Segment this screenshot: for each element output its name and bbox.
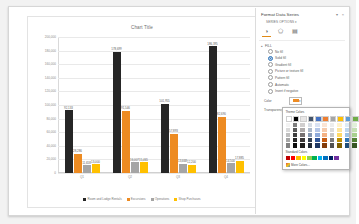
color-swatch[interactable] (308, 133, 313, 138)
radio-icon[interactable] (268, 62, 273, 67)
fill-option[interactable]: Invert if negative (256, 89, 348, 94)
color-swatch[interactable] (345, 128, 350, 133)
color-swatch[interactable] (322, 143, 327, 148)
fill-color-field[interactable]: Color▾ (256, 97, 348, 105)
color-swatch[interactable] (300, 116, 307, 123)
radio-icon[interactable] (268, 75, 273, 80)
radio-icon[interactable] (268, 49, 273, 54)
radio-icon[interactable] (268, 69, 273, 74)
color-swatch[interactable] (293, 143, 298, 148)
color-swatch[interactable] (286, 143, 291, 148)
color-swatch[interactable] (352, 128, 357, 133)
color-swatch[interactable] (345, 123, 350, 128)
bar[interactable]: 14,500 (227, 163, 235, 173)
color-swatch[interactable] (323, 156, 328, 161)
close-icon[interactable]: × (342, 12, 344, 17)
color-swatch[interactable] (337, 133, 342, 138)
color-swatch[interactable] (345, 143, 350, 148)
color-swatch[interactable] (291, 156, 296, 161)
fill-options-list[interactable]: No fillSolid fillGradient fillPicture or… (256, 49, 348, 94)
bar[interactable]: 91,546 (122, 111, 130, 173)
color-swatch[interactable] (352, 143, 357, 148)
bar[interactable]: 16,007 (131, 162, 139, 173)
bar[interactable]: 186,395 (209, 46, 217, 173)
color-swatch[interactable] (337, 138, 342, 143)
bar[interactable]: 12,200 (188, 165, 196, 173)
color-swatch[interactable] (345, 116, 352, 123)
bar[interactable]: 92,133 (65, 110, 73, 173)
color-swatch[interactable] (302, 156, 307, 161)
effects-tab[interactable]: ⬠ (276, 27, 285, 36)
color-swatch[interactable] (352, 116, 359, 123)
bar[interactable]: 178,699 (113, 52, 121, 174)
more-colors-item[interactable]: More Colors... (286, 163, 347, 167)
fill-option[interactable]: Solid fill (256, 56, 348, 61)
color-swatch[interactable] (307, 156, 312, 161)
color-swatch[interactable] (293, 138, 298, 143)
bar-group[interactable]: 101,95557,89313,66812,200Q3 (161, 37, 196, 173)
color-picker-dropdown[interactable]: Theme Colors Standard Colors More Colors… (282, 107, 350, 170)
legend-item[interactable]: Operations (151, 197, 170, 201)
theme-color-swatches[interactable] (286, 116, 347, 148)
series-options-tab[interactable]: ▤ (290, 27, 299, 36)
color-swatch-button[interactable]: ▾ (289, 97, 302, 105)
bar-group[interactable]: 92,13328,28611,65813,000Q1 (65, 37, 100, 173)
color-swatch[interactable] (330, 143, 335, 148)
chart-container[interactable]: Chart Title 200,000180,000160,000140,000… (27, 16, 257, 208)
color-swatch[interactable] (322, 138, 327, 143)
color-swatch[interactable] (293, 123, 298, 128)
color-swatch[interactable] (315, 116, 322, 123)
chevron-down-icon[interactable]: ▾ (299, 100, 301, 103)
color-swatch[interactable] (345, 138, 350, 143)
bar[interactable]: 13,000 (92, 164, 100, 173)
color-swatch[interactable] (308, 116, 315, 123)
color-swatch[interactable] (315, 128, 320, 133)
color-swatch[interactable] (337, 128, 342, 133)
color-swatch[interactable] (286, 133, 291, 138)
chart-plot-area[interactable]: 200,000180,000160,000140,000120,000100,0… (58, 37, 250, 173)
color-swatch[interactable] (286, 138, 291, 143)
color-swatch[interactable] (293, 128, 298, 133)
bar-groups[interactable]: 92,13328,28611,65813,000Q1178,69991,5461… (58, 37, 250, 173)
bar[interactable]: 13,668 (179, 164, 187, 173)
chart-legend[interactable]: Room and Lodge RentalsExcursionsOperatio… (28, 197, 256, 201)
color-swatch[interactable] (345, 133, 350, 138)
legend-item[interactable]: Room and Lodge Rentals (83, 197, 121, 201)
pane-subtitle[interactable]: SERIES OPTIONS ▾ (266, 20, 344, 24)
color-swatch[interactable] (330, 133, 335, 138)
color-swatch[interactable] (337, 143, 342, 148)
color-swatch[interactable] (286, 116, 293, 123)
color-swatch[interactable] (337, 123, 342, 128)
fill-option[interactable]: Automatic (256, 82, 348, 87)
color-swatch[interactable] (352, 123, 357, 128)
fill-line-tab[interactable]: ◑ (262, 27, 271, 37)
color-swatch[interactable] (329, 156, 334, 161)
color-swatch[interactable] (286, 156, 291, 161)
fill-option[interactable]: Pattern fill (256, 75, 348, 80)
color-swatch[interactable] (286, 123, 291, 128)
standard-color-swatches[interactable] (286, 156, 347, 161)
bar[interactable]: 11,658 (83, 165, 91, 173)
color-swatch[interactable] (315, 123, 320, 128)
color-swatch[interactable] (300, 128, 305, 133)
color-swatch[interactable] (322, 133, 327, 138)
color-swatch[interactable] (300, 143, 305, 148)
color-swatch[interactable] (318, 156, 323, 161)
color-swatch[interactable] (308, 123, 313, 128)
color-swatch[interactable] (322, 116, 329, 123)
color-swatch[interactable] (337, 116, 344, 123)
color-swatch[interactable] (300, 123, 305, 128)
fill-section-header[interactable]: ▴ FILL (256, 44, 348, 48)
color-swatch[interactable] (300, 138, 305, 143)
radio-icon[interactable] (268, 56, 273, 61)
color-swatch[interactable] (308, 138, 313, 143)
color-swatch[interactable] (330, 138, 335, 143)
fill-option[interactable]: Picture or texture fill (256, 69, 348, 74)
color-swatch[interactable] (308, 128, 313, 133)
radio-icon[interactable] (268, 89, 273, 94)
bar[interactable]: 28,286 (74, 154, 82, 173)
color-swatch[interactable] (330, 128, 335, 133)
bar-group[interactable]: 186,39582,69014,50017,885Q4 (209, 37, 244, 173)
bar[interactable]: 82,690 (218, 117, 226, 173)
color-swatch[interactable] (334, 156, 339, 161)
